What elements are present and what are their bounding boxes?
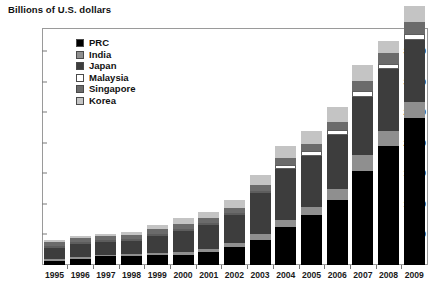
bar-segment: [44, 261, 65, 265]
bar-segment: [327, 107, 348, 122]
bar-stack: [352, 65, 373, 265]
x-axis-tick-label: 2002: [221, 270, 247, 280]
x-axis-tick-mark: [350, 265, 351, 269]
legend-swatch-icon: [76, 39, 84, 47]
bar-segment: [352, 171, 373, 265]
bar-segment: [250, 193, 271, 234]
legend-item-label: PRC: [89, 38, 109, 48]
bar-segment: [250, 240, 271, 265]
x-axis-tick-label: 2006: [324, 270, 350, 280]
x-axis-tick-mark: [376, 265, 377, 269]
x-axis-tick-mark: [221, 265, 222, 269]
x-axis-tick-mark: [273, 265, 274, 269]
legend-item-label: Korea: [89, 96, 116, 106]
x-axis-tick-label: 2003: [247, 270, 273, 280]
bar-segment: [327, 122, 348, 130]
bar-stack: [147, 225, 168, 265]
bar-segment: [173, 231, 194, 253]
bar-stack: [404, 6, 425, 265]
x-axis-tick-label: 1998: [119, 270, 145, 280]
legend-item: Malaysia: [76, 73, 135, 84]
bar-segment: [224, 200, 245, 207]
bar-stack: [44, 240, 65, 265]
bar-stack: [95, 234, 116, 265]
x-axis-tick-mark: [144, 265, 145, 269]
bar-segment: [95, 242, 116, 255]
x-axis-tick-label: 2004: [273, 270, 299, 280]
bar-segment: [198, 252, 219, 265]
bar-segment: [275, 227, 296, 265]
bar-segment: [378, 131, 399, 146]
bar-stack: [224, 200, 245, 265]
bar-segment: [95, 256, 116, 265]
x-axis-tick-mark: [196, 265, 197, 269]
bar-segment: [250, 175, 271, 184]
bar-segment: [327, 135, 348, 189]
bar-segment: [121, 241, 142, 254]
x-axis-tick-label: 2001: [196, 270, 222, 280]
bar-segment: [404, 40, 425, 102]
bar-stack: [198, 212, 219, 265]
x-axis-tick-mark: [119, 265, 120, 269]
bar-segment: [147, 236, 168, 254]
legend-item-label: Malaysia: [89, 73, 129, 83]
bar-stack: [250, 175, 271, 265]
bar-segment: [378, 146, 399, 265]
bar-segment: [301, 144, 322, 151]
x-axis-tick-mark: [299, 265, 300, 269]
x-axis-tick-label: 2005: [299, 270, 325, 280]
bar-segment: [275, 169, 296, 220]
bar-segment: [404, 22, 425, 33]
bar-stack: [173, 218, 194, 265]
bar-segment: [404, 6, 425, 23]
legend-item: India: [76, 50, 135, 61]
x-axis-tick-label: 1995: [42, 270, 68, 280]
bar-segment: [198, 225, 219, 249]
chart-legend: PRCIndiaJapanMalaysiaSingaporeKorea: [76, 38, 135, 106]
bar-segment: [224, 247, 245, 265]
bar-segment: [70, 259, 91, 265]
bar-stack: [301, 131, 322, 265]
x-axis-tick-label: 2009: [401, 270, 427, 280]
bar-stack: [121, 232, 142, 265]
bar-segment: [224, 215, 245, 243]
axis-title: Billions of U.S. dollars: [8, 4, 111, 15]
bar-segment: [404, 102, 425, 118]
bar-segment: [352, 155, 373, 171]
bar-stack: [70, 236, 91, 265]
x-axis-tick-mark: [324, 265, 325, 269]
x-axis-tick-mark: [93, 265, 94, 269]
legend-swatch-icon: [76, 85, 84, 93]
bar-segment: [378, 41, 399, 53]
legend-item-label: Singapore: [89, 84, 135, 94]
bar-segment: [327, 189, 348, 199]
bar-segment: [327, 200, 348, 265]
legend-swatch-icon: [76, 97, 84, 105]
bar-segment: [301, 131, 322, 144]
bar-segment: [378, 53, 399, 64]
legend-item: Singapore: [76, 84, 135, 95]
bar-segment: [301, 156, 322, 207]
bar-segment: [44, 248, 65, 259]
bar-segment: [147, 255, 168, 265]
legend-item-label: Japan: [89, 61, 116, 71]
bar-segment: [275, 146, 296, 158]
legend-item: Korea: [76, 96, 135, 107]
legend-item: Japan: [76, 61, 135, 72]
bar-stack: [378, 41, 399, 265]
bar-stack: [327, 107, 348, 265]
x-axis-tick-label: 1999: [144, 270, 170, 280]
bar-segment: [121, 256, 142, 265]
legend-swatch-icon: [76, 62, 84, 70]
bar-segment: [275, 158, 296, 165]
x-axis-tick-label: 2000: [170, 270, 196, 280]
bar-segment: [378, 69, 399, 130]
bar-segment: [173, 255, 194, 265]
bar-segment: [352, 65, 373, 81]
legend-item-label: India: [89, 50, 111, 60]
x-axis-tick-label: 1996: [67, 270, 93, 280]
legend-item: PRC: [76, 38, 135, 49]
x-axis-tick-mark: [67, 265, 68, 269]
bar-segment: [301, 207, 322, 215]
legend-swatch-icon: [76, 74, 84, 82]
